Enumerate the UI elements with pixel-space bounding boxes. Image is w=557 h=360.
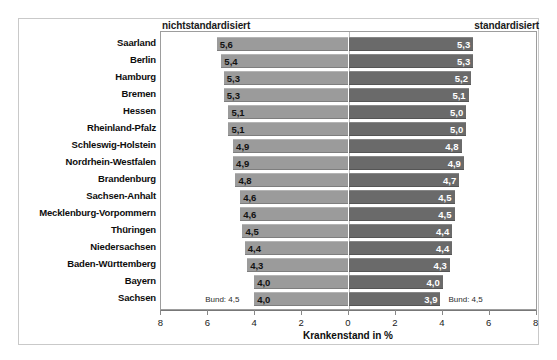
bar-value-nichtstandardisiert: 4,6 xyxy=(243,208,256,221)
bar-value-nichtstandardisiert: 5,1 xyxy=(231,123,244,136)
x-axis-line: 864202468 xyxy=(160,310,537,311)
bar-value-standardisiert: 4,4 xyxy=(430,225,449,238)
watermark-icon xyxy=(497,63,511,85)
category-label: Brandenburg xyxy=(0,173,156,184)
x-axis-tick-label: 4 xyxy=(439,317,444,328)
bar-value-nichtstandardisiert: 4,6 xyxy=(243,191,256,204)
x-axis-tick-label: 2 xyxy=(392,317,397,328)
bar-value-nichtstandardisiert: 4,9 xyxy=(236,140,249,153)
bar-value-standardisiert: 5,0 xyxy=(444,106,463,119)
bar-nichtstandardisiert xyxy=(233,156,348,170)
x-axis-tick xyxy=(301,310,302,315)
bar-nichtstandardisiert xyxy=(224,88,348,102)
bar-value-nichtstandardisiert: 4,0 xyxy=(257,293,270,306)
chart-row: 4,34,3 xyxy=(161,258,536,273)
bar-value-standardisiert: 5,1 xyxy=(447,89,466,102)
bar-value-nichtstandardisiert: 4,4 xyxy=(248,242,261,255)
bar-value-nichtstandardisiert: 4,5 xyxy=(245,225,258,238)
bar-nichtstandardisiert xyxy=(228,122,348,136)
bar-value-standardisiert: 3,9 xyxy=(418,293,437,306)
x-axis-tick-label: 0 xyxy=(345,317,350,328)
bar-nichtstandardisiert xyxy=(228,105,348,119)
category-labels-column: SaarlandBerlinHamburgBremenHessenRheinla… xyxy=(0,31,156,310)
x-axis-tick-label: 8 xyxy=(158,317,163,328)
chart-row: 5,35,2 xyxy=(161,71,536,86)
category-label: Bremen xyxy=(0,88,156,99)
bar-value-nichtstandardisiert: 4,8 xyxy=(238,174,251,187)
category-label: Saarland xyxy=(0,37,156,48)
chart-row: 4,44,4 xyxy=(161,241,536,256)
bar-value-nichtstandardisiert: 4,0 xyxy=(257,276,270,289)
chart-row: 5,35,1 xyxy=(161,88,536,103)
chart-row: 4,84,7 xyxy=(161,173,536,188)
chart-row: 4,94,9 xyxy=(161,156,536,171)
bar-nichtstandardisiert xyxy=(233,139,348,153)
x-axis-tick-label: 8 xyxy=(533,317,538,328)
x-axis-tick-label: 2 xyxy=(298,317,303,328)
bar-value-standardisiert: 4,0 xyxy=(421,276,440,289)
category-label: Niedersachsen xyxy=(0,241,156,252)
chart-row: 5,45,3 xyxy=(161,54,536,69)
bar-value-standardisiert: 5,3 xyxy=(451,38,470,51)
series-header-right: standardisiert xyxy=(474,20,539,31)
bar-value-standardisiert: 4,8 xyxy=(440,140,459,153)
bar-value-standardisiert: 4,3 xyxy=(428,259,447,272)
x-axis-tick-label: 6 xyxy=(205,317,210,328)
category-label: Bayern xyxy=(0,275,156,286)
bar-value-nichtstandardisiert: 5,1 xyxy=(231,106,244,119)
chart-row: 5,15,0 xyxy=(161,105,536,120)
bar-nichtstandardisiert xyxy=(235,173,348,187)
chart-row: 5,15,0 xyxy=(161,122,536,137)
category-label: Schleswig-Holstein xyxy=(0,139,156,150)
category-label: Thüringen xyxy=(0,224,156,235)
series-header-left: nichtstandardisiert xyxy=(162,20,250,31)
bar-value-nichtstandardisiert: 4,9 xyxy=(236,157,249,170)
bar-value-standardisiert: 5,0 xyxy=(444,123,463,136)
chart-row: 4,64,5 xyxy=(161,190,536,205)
bar-value-standardisiert: 5,2 xyxy=(449,72,468,85)
category-label: Baden-Württemberg xyxy=(0,258,156,269)
category-label: Sachsen xyxy=(0,292,156,303)
x-axis-title: Krankenstand in % xyxy=(303,330,393,341)
bar-nichtstandardisiert xyxy=(221,54,348,68)
bar-value-nichtstandardisiert: 4,3 xyxy=(250,259,263,272)
x-axis-tick xyxy=(489,310,490,315)
bar-value-nichtstandardisiert: 5,3 xyxy=(227,89,240,102)
x-axis-tick xyxy=(160,310,161,315)
x-axis-tick xyxy=(536,310,537,315)
bar-value-standardisiert: 4,7 xyxy=(437,174,456,187)
chart-row: 4,04,0 xyxy=(161,275,536,290)
x-axis-tick-label: 4 xyxy=(252,317,257,328)
chart-row: 5,65,3 xyxy=(161,37,536,52)
plot-area: 5,65,35,45,35,35,25,35,15,15,05,15,04,94… xyxy=(160,31,537,310)
x-axis-tick-label: 6 xyxy=(486,317,491,328)
bar-value-standardisiert: 4,4 xyxy=(430,242,449,255)
x-axis-tick xyxy=(442,310,443,315)
bar-value-standardisiert: 5,3 xyxy=(451,55,470,68)
category-label: Nordrhein-Westfalen xyxy=(0,156,156,167)
x-axis-tick xyxy=(395,310,396,315)
category-label: Sachsen-Anhalt xyxy=(0,190,156,201)
bar-value-nichtstandardisiert: 5,6 xyxy=(220,38,233,51)
bar-value-nichtstandardisiert: 5,4 xyxy=(224,55,237,68)
category-label: Berlin xyxy=(0,54,156,65)
category-label: Hessen xyxy=(0,105,156,116)
x-axis-tick xyxy=(207,310,208,315)
bar-value-standardisiert: 4,9 xyxy=(442,157,461,170)
chart-row: 4,64,5 xyxy=(161,207,536,222)
chart-row: 4,94,8 xyxy=(161,139,536,154)
category-label: Hamburg xyxy=(0,71,156,82)
category-label: Rheinland-Pfalz xyxy=(0,122,156,133)
bar-nichtstandardisiert xyxy=(217,37,348,51)
bund-reference-label-left: Bund: 4,5 xyxy=(205,295,239,304)
bund-reference-label-right: Bund: 4,5 xyxy=(448,295,482,304)
x-axis-tick xyxy=(254,310,255,315)
x-axis-tick xyxy=(348,310,349,315)
bar-value-standardisiert: 4,5 xyxy=(433,191,452,204)
category-label: Mecklenburg-Vorpommern xyxy=(0,207,156,218)
chart-row: 4,54,4 xyxy=(161,224,536,239)
bar-nichtstandardisiert xyxy=(224,71,348,85)
bar-value-standardisiert: 4,5 xyxy=(433,208,452,221)
bar-value-nichtstandardisiert: 5,3 xyxy=(227,72,240,85)
